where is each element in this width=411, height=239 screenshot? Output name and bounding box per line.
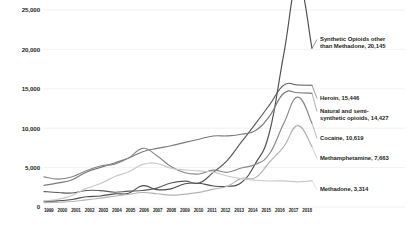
series-endpoint-label: Cocaine, 10,619 xyxy=(320,135,363,142)
series-endpoint-label: Heroin, 15,446 xyxy=(320,95,359,102)
series-endpoint-label: Natural and semi- synthetic opioids, 14,… xyxy=(320,108,388,122)
series-endpoint-label: Methamphetamine, 7,663 xyxy=(320,155,389,162)
overdose-deaths-line-chart: 05,00010,00015,00020,00025,000 199920002… xyxy=(0,0,411,239)
series-endpoint-labels: Synthetic Opioids other than Methadone, … xyxy=(0,0,411,239)
series-endpoint-label: Synthetic Opioids other than Methadone, … xyxy=(320,36,385,50)
series-endpoint-label: Methadone, 3,314 xyxy=(320,186,368,193)
